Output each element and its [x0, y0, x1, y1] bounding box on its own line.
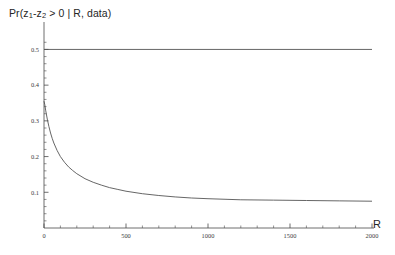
plot-title-suffix: > 0 | R, data)	[46, 7, 111, 19]
x-tick-label: 0	[42, 232, 45, 239]
y-tick-label: 0.4	[31, 81, 40, 88]
x-tick-label: 2000	[366, 232, 379, 239]
y-tick-label: 0.2	[31, 153, 39, 160]
axes-group	[44, 22, 374, 228]
x-tick-label: 500	[121, 232, 131, 239]
y-tick-label: 0.5	[31, 46, 39, 53]
series-posterior-probability	[44, 101, 372, 201]
plot-title-mid: -z	[33, 7, 42, 19]
y-tick-label: 0.3	[31, 117, 39, 124]
x-tick-label: 1500	[284, 232, 297, 239]
x-axis-label: R	[373, 218, 381, 230]
x-tick-label: 1000	[202, 232, 215, 239]
plot-canvas: 05001000150020000.10.20.30.40.5	[0, 0, 395, 255]
plot-title-prefix: Pr(z	[9, 7, 29, 19]
tick-labels-group: 05001000150020000.10.20.30.40.5	[31, 46, 378, 239]
plot-title: Pr(z1-z2 > 0 | R, data)	[9, 7, 111, 20]
y-tick-label: 0.1	[31, 189, 39, 196]
figure-container: Pr(z1-z2 > 0 | R, data) 0500100015002000…	[0, 0, 395, 255]
curves-group	[44, 49, 372, 201]
